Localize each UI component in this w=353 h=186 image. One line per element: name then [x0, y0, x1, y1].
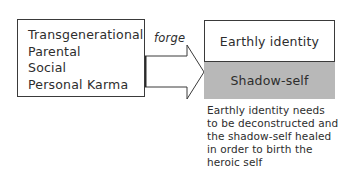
caption-line: to be deconstructed and [207, 117, 353, 130]
influence-transgenerational: Transgenerational [28, 27, 144, 44]
earthly-identity-label: Earthly identity [220, 34, 319, 49]
earthly-identity-box: Earthly identity [204, 20, 335, 62]
caption-line: heroic self [207, 156, 353, 169]
caption-text: Earthly identity needs to be deconstruct… [207, 104, 353, 169]
caption-line: the shadow-self healed [207, 130, 353, 143]
caption-line: in order to birth the [207, 143, 353, 156]
shadow-self-box: Shadow-self [204, 62, 335, 99]
influence-personal-karma: Personal Karma [28, 77, 144, 94]
block-arrow-icon [145, 45, 205, 99]
shadow-self-label: Shadow-self [230, 73, 308, 88]
influences-box: Transgenerational Parental Social Person… [17, 19, 145, 97]
influence-parental: Parental [28, 44, 144, 61]
caption-line: Earthly identity needs [207, 104, 353, 117]
influence-social: Social [28, 60, 144, 77]
forge-label: forge [154, 31, 185, 45]
